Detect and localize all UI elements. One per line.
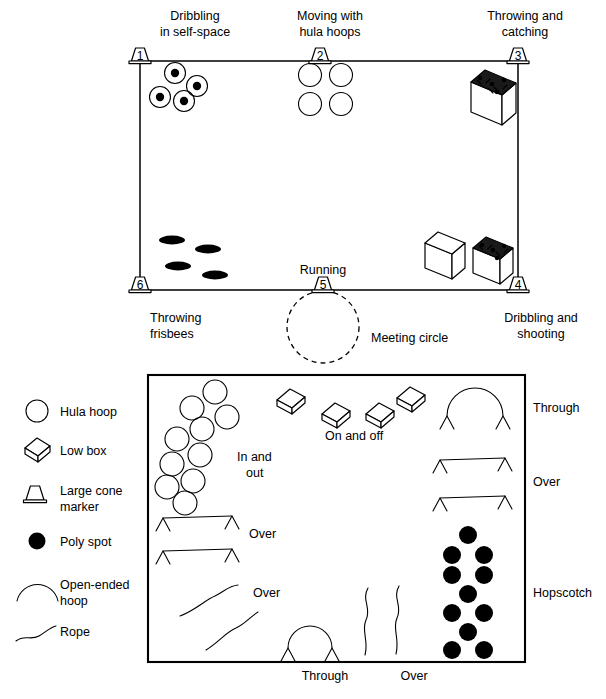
station-4-label-line-2: shooting (517, 327, 564, 341)
hula-hoop (165, 427, 189, 451)
hula-hoop (215, 405, 239, 429)
poly-spot (443, 566, 461, 584)
field-area: Dribbling in self-space Moving with hula… (129, 9, 578, 363)
cone-marker-4: 4 (507, 277, 529, 293)
poly-spot (443, 604, 461, 622)
through-label-right: Through (533, 401, 580, 415)
poly-spot-icon (29, 533, 46, 550)
hula-hoop (203, 380, 227, 404)
ball-in-hoop (187, 76, 208, 97)
obstacle-course-area: In and out (148, 375, 592, 662)
poly-spot (459, 623, 477, 641)
over-ropes-left-group (156, 516, 239, 564)
cone-marker-5: 5 (312, 277, 334, 293)
station-6-label-line-1: Throwing (150, 311, 201, 325)
low-box (277, 389, 305, 414)
hula-hoops-group (299, 64, 353, 116)
in-and-out-label-line-2: out (246, 466, 264, 480)
poly-spot (475, 546, 493, 564)
cone-marker-1: 1 (129, 48, 151, 64)
cone-marker-2-number: 2 (317, 49, 324, 63)
poly-spot (443, 641, 461, 659)
station-1-label-line-1: Dribbling (170, 9, 219, 23)
cone-marker-3-number: 3 (515, 49, 522, 63)
hula-hoop (299, 64, 322, 87)
station-layout-figure: Dribbling in self-space Moving with hula… (0, 0, 606, 699)
legend-label-hula-hoop: Hula hoop (60, 405, 117, 419)
equipment-box-plain (425, 232, 465, 279)
over-label-right: Over (533, 475, 560, 489)
ball-in-hoop (174, 91, 195, 112)
cone-marker-3: 3 (507, 48, 529, 64)
on-and-off-label: On and off (325, 429, 384, 443)
poly-spot (443, 546, 461, 564)
hula-hoop (160, 452, 184, 476)
rope-on-cones (156, 516, 239, 531)
poly-spot (475, 604, 493, 622)
hula-hoop (188, 443, 212, 467)
ball-in-hoop (150, 87, 171, 108)
hula-hoop (173, 491, 197, 515)
legend: Hula hoop Low box Large cone marker Poly… (16, 400, 130, 641)
over-loose-ropes-group (180, 585, 258, 650)
legend-label-rope: Rope (60, 625, 90, 639)
over-vertical-ropes-group (364, 586, 399, 655)
cone-marker-5-number: 5 (320, 278, 327, 292)
hula-hoop (330, 93, 353, 116)
hopscotch-group (443, 526, 493, 659)
rope-on-cones (156, 549, 239, 564)
rope-icon (16, 626, 56, 641)
through-label-bottom: Through (302, 669, 349, 683)
legend-label-large-cone-line-2: marker (60, 500, 99, 514)
station-5-label: Running (300, 263, 347, 277)
station-2-label-line-1: Moving with (297, 9, 363, 23)
cone-marker-4-number: 4 (515, 278, 522, 292)
over-label-bottom: Over (400, 669, 427, 683)
rope (364, 588, 368, 655)
hula-hoop (190, 417, 214, 441)
large-cone-marker-icon (24, 486, 47, 503)
through-hoop-bottom (281, 626, 339, 661)
open-ended-hoop-icon (17, 585, 58, 601)
over-ropes-right-group (433, 458, 512, 511)
hopscotch-label: Hopscotch (533, 586, 592, 600)
low-box (366, 403, 394, 428)
diagram-canvas: Dribbling in self-space Moving with hula… (0, 0, 606, 699)
cone-marker-6: 6 (129, 277, 151, 293)
cone-marker-1-number: 1 (137, 49, 144, 63)
rope (206, 612, 258, 650)
meeting-circle-label: Meeting circle (371, 331, 448, 345)
equipment-box-bottom-right (473, 237, 513, 284)
rope-on-cones (433, 458, 512, 473)
hula-hoop (299, 93, 322, 116)
low-box (322, 403, 350, 428)
meeting-circle (287, 291, 359, 363)
frisbee (165, 262, 191, 271)
poly-spot (459, 585, 477, 603)
station-6-label-line-2: frisbees (150, 327, 194, 341)
station-4-label-line-1: Dribbling and (504, 311, 578, 325)
poly-spot (459, 526, 477, 544)
cone-marker-2: 2 (309, 48, 331, 64)
frisbees-group (159, 236, 228, 280)
in-and-out-label-line-1: In and (237, 450, 272, 464)
legend-label-open-hoop-line-1: Open-ended (60, 578, 130, 592)
legend-label-open-hoop-line-2: hoop (60, 594, 88, 608)
equipment-box-top-right (471, 70, 516, 125)
legend-label-large-cone-line-1: Large cone (60, 484, 123, 498)
rope (180, 585, 238, 616)
station-2-label-line-2: hula hoops (299, 25, 360, 39)
ball-in-hoop (165, 63, 186, 84)
poly-spot (475, 566, 493, 584)
through-hoop-top (440, 388, 510, 429)
low-box-icon (25, 438, 50, 462)
cone-marker-6-number: 6 (137, 278, 144, 292)
frisbee (202, 271, 228, 280)
hula-hoop (180, 396, 204, 420)
station-3-label-line-1: Throwing and (487, 9, 563, 23)
over-label-loose: Over (253, 586, 280, 600)
frisbee (159, 236, 185, 245)
low-box (397, 387, 425, 412)
over-label-left: Over (249, 527, 276, 541)
rope (395, 586, 399, 654)
